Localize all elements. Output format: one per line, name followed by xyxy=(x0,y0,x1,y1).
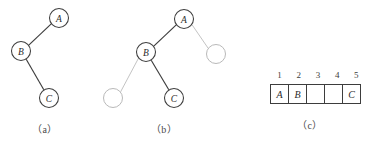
array-index-3: 3 xyxy=(308,70,327,80)
tree-a-node-B: B xyxy=(12,42,31,61)
array-cell-row: A B C xyxy=(271,85,361,104)
panel-b-tree-diagram: A B C （b） xyxy=(100,0,240,145)
tree-b-edges xyxy=(121,25,209,92)
node-circle-b-empty-right xyxy=(207,45,226,64)
node-label-b-C: C xyxy=(171,94,178,104)
figure-binary-tree-representations: A B C （a） xyxy=(0,0,370,145)
panel-c-caption: （c） xyxy=(250,117,370,132)
tree-b-node-empty-left xyxy=(104,89,123,108)
edge-b-B-to-C xyxy=(151,60,169,89)
edge-b-A-to-B xyxy=(154,25,177,47)
tree-a-node-A: A xyxy=(50,9,69,28)
array-index-1: 1 xyxy=(270,70,289,80)
node-label-a-A: A xyxy=(55,14,62,24)
edge-a-B-to-C xyxy=(26,59,44,89)
node-label-a-B: B xyxy=(18,47,24,57)
tree-a-svg: A B C xyxy=(0,0,110,118)
edge-b-A-to-empty-right xyxy=(192,25,208,49)
array-index-2: 2 xyxy=(289,70,308,80)
tree-b-node-B: B xyxy=(137,43,156,62)
array-cell-5: C xyxy=(343,85,361,104)
array-cell-3 xyxy=(307,85,325,104)
array-cell-4 xyxy=(325,85,343,104)
array-index-4: 4 xyxy=(328,70,347,80)
array-cell-1: A xyxy=(271,85,289,104)
array-table-wrapper: A B C xyxy=(270,84,361,104)
panel-b-caption: （b） xyxy=(94,121,234,136)
panel-a-caption: （a） xyxy=(0,121,100,136)
node-label-a-C: C xyxy=(46,94,53,104)
tree-b-node-C: C xyxy=(165,89,184,108)
tree-b-nodes: A B C xyxy=(104,10,226,108)
panel-c-array-diagram: 1 2 3 4 5 A B C （c） xyxy=(250,0,370,145)
array-cell-2: B xyxy=(289,85,307,104)
array-table: A B C xyxy=(270,84,361,104)
edge-b-B-to-empty-left xyxy=(121,58,139,92)
tree-b-svg: A B C xyxy=(100,0,240,118)
tree-a-nodes: A B C xyxy=(12,9,69,108)
tree-a-node-C: C xyxy=(40,89,59,108)
array-index-row: 1 2 3 4 5 xyxy=(270,70,366,80)
node-label-b-B: B xyxy=(143,48,149,58)
node-circle-b-empty-left xyxy=(104,89,123,108)
tree-a-edges xyxy=(26,24,51,90)
edge-a-A-to-B xyxy=(29,24,52,46)
array-index-5: 5 xyxy=(347,70,366,80)
tree-b-node-empty-right xyxy=(207,45,226,64)
tree-b-node-A: A xyxy=(175,10,194,29)
node-label-b-A: A xyxy=(180,15,187,25)
